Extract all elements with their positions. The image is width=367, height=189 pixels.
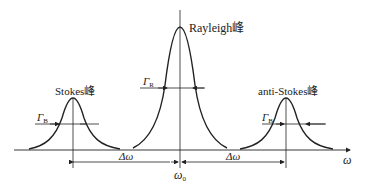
- anti-stokes-peak-label: anti-Stokes峰: [258, 86, 319, 97]
- stokes-peak-label: Stokes峰: [55, 86, 95, 97]
- rayleigh-linewidth-label: ΓR: [143, 76, 154, 89]
- rayleigh-peak-label: Rayleigh峰: [189, 22, 244, 34]
- omega-axis-label: ω: [343, 154, 351, 166]
- stokes-shift-label: Δω: [119, 151, 133, 162]
- stokes-linewidth-label: ΓB: [37, 112, 48, 125]
- omega0-label: ω0: [174, 169, 186, 183]
- anti-stokes-peak-curve: [240, 98, 333, 149]
- anti-stokes-linewidth-label: ΓB: [262, 112, 273, 125]
- anti-stokes-shift-label: Δω: [226, 151, 240, 162]
- raman-brillouin-spectrum-diagram: Rayleigh峰 Stokes峰 anti-Stokes峰 ΓR ΓB ΓB …: [0, 0, 367, 189]
